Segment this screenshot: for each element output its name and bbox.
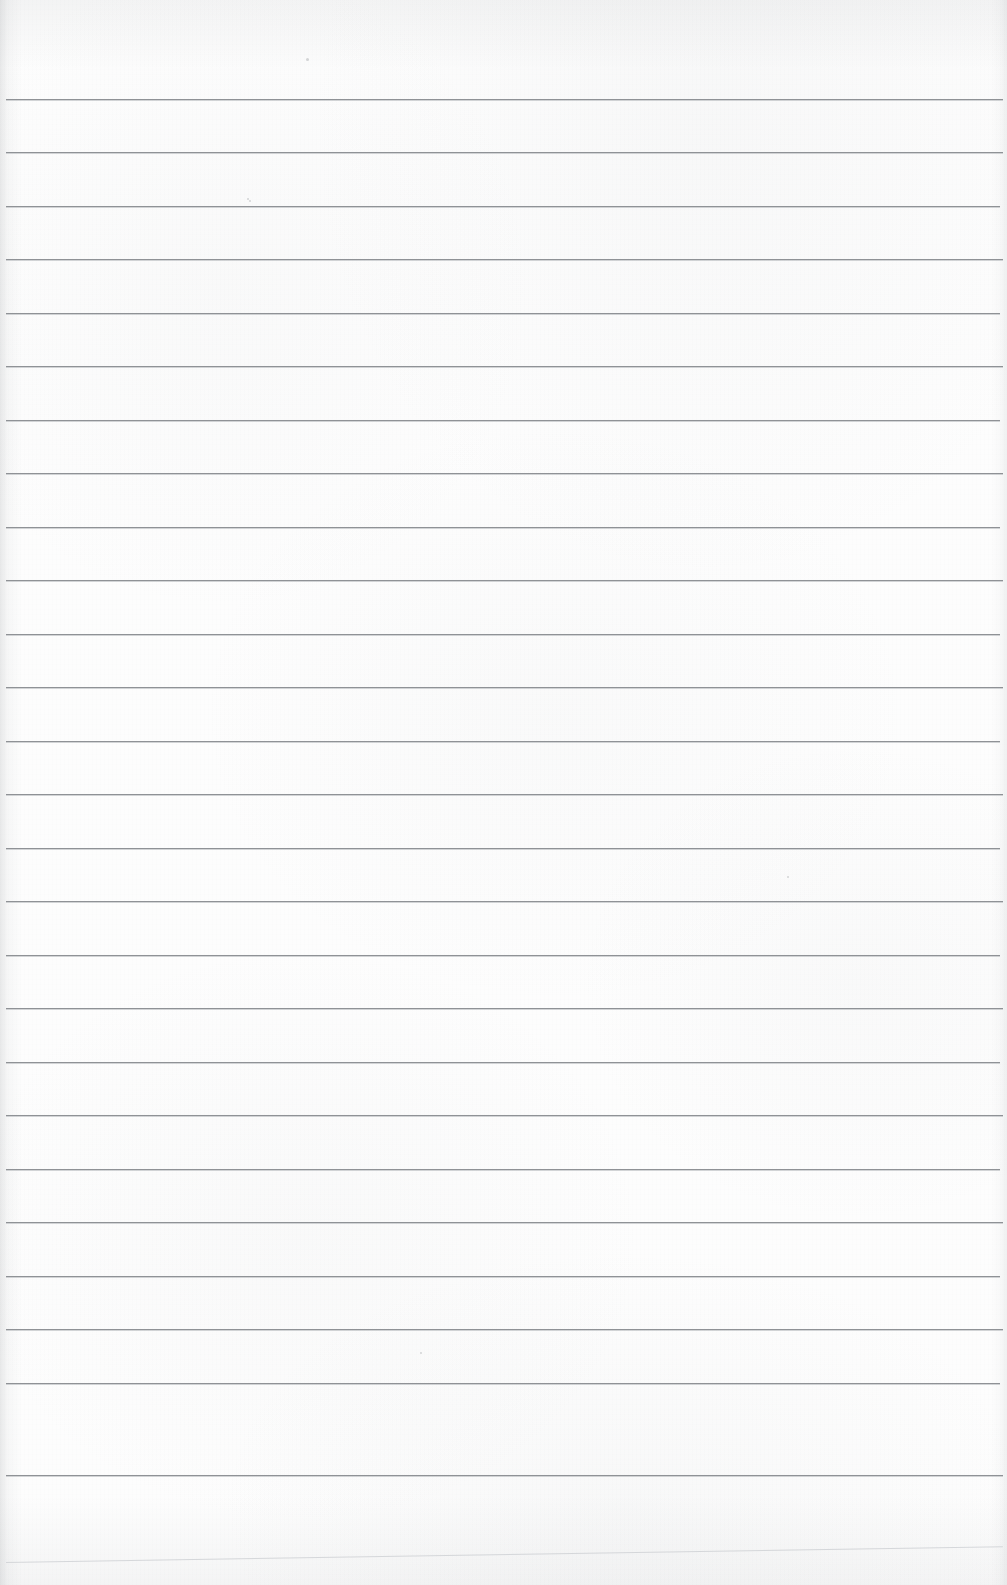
scanned-page xyxy=(0,0,1007,1585)
ruled-line xyxy=(6,901,1003,902)
ruled-line xyxy=(6,152,1003,153)
ruled-line xyxy=(6,848,1000,849)
ruled-line xyxy=(6,313,1000,314)
ruled-line xyxy=(6,1115,1003,1116)
scan-edge-shadow-right xyxy=(991,0,1007,1585)
ruled-line xyxy=(6,580,1003,581)
scan-speck xyxy=(306,58,309,61)
ruled-line xyxy=(6,1008,1003,1009)
ruled-line xyxy=(6,1062,1000,1063)
scan-edge-shadow-top xyxy=(0,0,1007,70)
ruled-line xyxy=(6,1546,1003,1563)
ruled-line xyxy=(6,366,1003,367)
scan-speck xyxy=(420,1352,422,1354)
ruled-line xyxy=(6,1169,1000,1170)
ruled-line xyxy=(6,473,1003,474)
scan-speck xyxy=(249,200,251,202)
ruled-line xyxy=(6,527,1000,528)
ruled-line xyxy=(6,1383,1000,1384)
ruled-line xyxy=(6,634,1000,635)
scan-edge-shadow-bottom xyxy=(0,1495,1007,1585)
ruled-line xyxy=(6,687,1003,688)
ruled-line xyxy=(6,1276,1000,1277)
ruled-line xyxy=(6,259,1003,260)
ruled-line xyxy=(6,1222,1003,1223)
scan-edge-shadow-left xyxy=(0,0,22,1585)
ruled-line xyxy=(6,420,1000,421)
ruled-line xyxy=(6,206,1000,207)
scan-speck xyxy=(787,876,789,878)
ruled-line xyxy=(6,99,1003,100)
paper-grain-texture xyxy=(0,0,1007,1585)
ruled-line xyxy=(6,741,1000,742)
ruled-line xyxy=(6,1329,1003,1330)
ruled-line xyxy=(6,794,1003,795)
ruled-line xyxy=(6,955,1000,956)
scan-speck xyxy=(247,198,249,200)
ruled-line xyxy=(6,1475,1003,1476)
